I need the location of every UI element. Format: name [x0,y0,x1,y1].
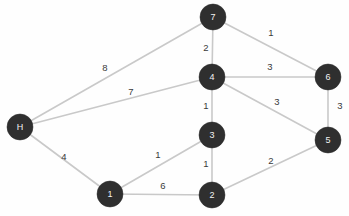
edge-weight-label: 8 [102,62,107,73]
node-label: 5 [325,135,330,145]
edge-weight-label: 6 [160,180,165,191]
node-label: 2 [209,190,214,200]
edge-weight-label: 3 [267,61,272,72]
edge-weight-label: 1 [203,158,208,169]
graph-edge [110,194,212,195]
edge-weight-label: 1 [268,27,273,38]
graph-node-6[interactable]: 6 [315,64,341,90]
graph-edge [212,140,328,195]
node-label: H [17,122,24,132]
edge-weight-label: 3 [274,96,279,107]
edge-weight-label: 1 [155,149,160,160]
node-label: 4 [209,72,214,82]
edge-weight-label: 3 [337,100,342,111]
graph-node-1[interactable]: 1 [97,181,123,207]
node-label: 6 [325,72,330,82]
graph-node-H[interactable]: H [7,114,33,140]
edge-weight-label: 2 [203,42,208,53]
edge-weight-label: 1 [203,100,208,111]
graph-canvas: 8742131331162 H7431265 [0,0,349,216]
graph-edge [20,17,213,127]
graph-edge [212,77,328,140]
node-label: 7 [210,12,215,22]
graph-node-7[interactable]: 7 [200,4,226,30]
node-label: 3 [209,130,214,140]
edge-weight-label: 7 [128,86,133,97]
edge-weight-label: 2 [268,155,273,166]
edges-layer [20,17,328,195]
graph-edge [20,77,212,127]
graph-node-2[interactable]: 2 [199,182,225,208]
graph-node-5[interactable]: 5 [315,127,341,153]
edge-weights-layer: 8742131331162 [61,27,342,191]
edge-weight-label: 4 [61,151,66,162]
graph-diagram: 8742131331162 H7431265 [0,0,349,216]
node-label: 1 [107,189,112,199]
graph-node-4[interactable]: 4 [199,64,225,90]
graph-node-3[interactable]: 3 [199,122,225,148]
